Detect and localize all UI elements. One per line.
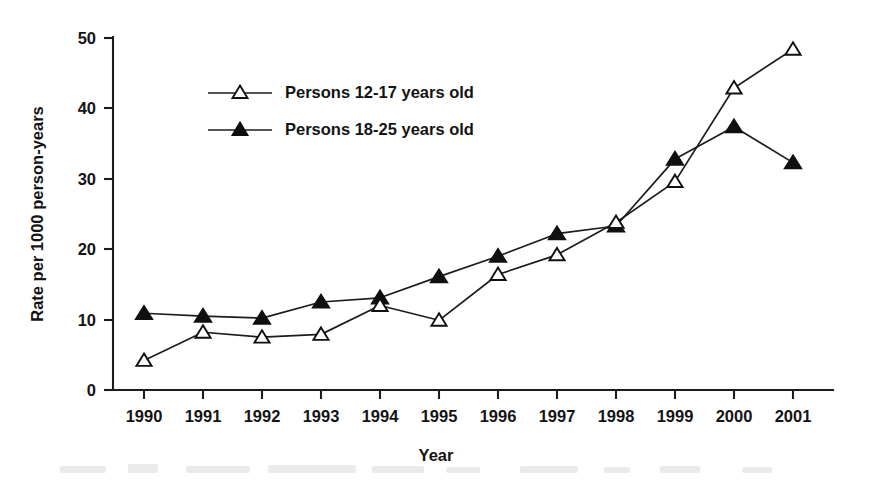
x-tick-label: 1992 xyxy=(244,407,281,425)
x-tick-label: 1997 xyxy=(539,407,576,425)
scan-artifact xyxy=(128,464,158,473)
filled-triangle-marker xyxy=(136,306,152,319)
filled-triangle-marker xyxy=(726,119,742,132)
x-tick-label: 1990 xyxy=(126,407,163,425)
scan-artifact xyxy=(186,466,250,473)
chart-figure: 50 40 30 20 10 0 1990 1991 1992 xyxy=(0,0,872,481)
scan-artifact xyxy=(446,467,480,473)
scan-artifact xyxy=(742,467,772,473)
y-tick-label: 0 xyxy=(87,381,96,399)
open-triangle-marker xyxy=(136,353,151,365)
x-axis-ticks xyxy=(144,390,793,399)
line-chart: 50 40 30 20 10 0 1990 1991 1992 xyxy=(0,0,872,481)
filled-triangle-icon xyxy=(233,123,248,136)
x-axis-title: Year xyxy=(419,446,454,464)
scan-artifact xyxy=(660,466,700,473)
y-tick-label: 20 xyxy=(78,240,96,258)
filled-triangle-marker xyxy=(490,249,506,262)
x-tick-label: 1991 xyxy=(185,407,222,425)
y-tick-label: 10 xyxy=(78,311,96,329)
open-triangle-marker xyxy=(667,175,682,187)
open-triangle-marker xyxy=(549,248,564,260)
filled-triangle-marker xyxy=(431,269,447,282)
x-tick-label: 1993 xyxy=(303,407,340,425)
series-markers-persons-18-25 xyxy=(136,119,801,323)
scan-artifact xyxy=(60,466,106,473)
x-tick-label: 2000 xyxy=(716,407,753,425)
scan-artifact xyxy=(520,466,578,473)
y-tick-label: 40 xyxy=(78,99,96,117)
y-tick-label: 50 xyxy=(78,29,96,47)
y-axis-tick-labels: 50 40 30 20 10 0 xyxy=(78,29,96,399)
open-triangle-marker xyxy=(608,216,623,228)
series-line-persons-18-25 xyxy=(144,127,793,318)
x-tick-label: 1998 xyxy=(598,407,635,425)
legend-entry-persons-18-25: Persons 18-25 years old xyxy=(208,120,474,138)
scan-artifact xyxy=(604,467,630,473)
y-axis-title: Rate per 1000 person-years xyxy=(28,106,46,322)
x-tick-label: 2001 xyxy=(775,407,812,425)
scan-artifact xyxy=(268,465,356,473)
x-axis-tick-labels: 1990 1991 1992 1993 1994 1995 1996 1997 … xyxy=(126,407,812,425)
x-tick-label: 1999 xyxy=(657,407,694,425)
filled-triangle-marker xyxy=(785,155,801,168)
open-triangle-marker xyxy=(313,327,328,339)
open-triangle-marker xyxy=(195,325,210,337)
x-tick-label: 1995 xyxy=(421,407,458,425)
open-triangle-marker xyxy=(490,268,505,280)
legend: Persons 12-17 years old Persons 18-25 ye… xyxy=(208,83,474,138)
open-triangle-icon xyxy=(233,86,248,99)
x-tick-label: 1994 xyxy=(362,407,400,425)
legend-label: Persons 18-25 years old xyxy=(285,120,474,138)
legend-entry-persons-12-17: Persons 12-17 years old xyxy=(208,83,474,101)
open-triangle-marker xyxy=(726,81,741,93)
scan-artifact xyxy=(372,466,424,473)
x-tick-label: 1996 xyxy=(480,407,517,425)
legend-label: Persons 12-17 years old xyxy=(285,83,474,101)
open-triangle-marker xyxy=(785,42,800,54)
y-axis-ticks xyxy=(104,38,113,390)
y-tick-label: 30 xyxy=(78,170,96,188)
filled-triangle-marker xyxy=(667,152,683,165)
